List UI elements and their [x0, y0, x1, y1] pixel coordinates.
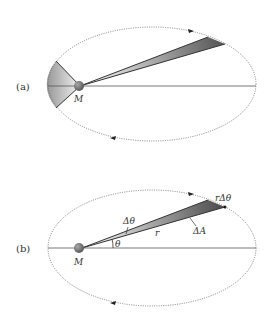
orbit-arrow-top-b: [188, 192, 194, 196]
radius-label: r: [155, 228, 160, 238]
theta-arc: [112, 239, 113, 248]
mass-label-b: M: [73, 257, 84, 267]
panel-b-label: (b): [16, 243, 30, 254]
aphelion-wedge: [80, 37, 225, 86]
kepler-second-law-diagram: (a) M (b) M θ Δθ r rΔθ ΔA: [0, 0, 274, 314]
mass-label-a: M: [73, 94, 84, 104]
delta-theta-label: Δθ: [122, 216, 135, 226]
theta-label: θ: [115, 239, 121, 249]
central-mass-b: [74, 243, 84, 253]
orbit-arrow-top: [188, 29, 194, 33]
area-label: ΔA: [192, 226, 206, 236]
panel-a: (a) M: [16, 27, 256, 141]
panel-a-label: (a): [16, 81, 30, 92]
swept-area-wedge: [82, 200, 225, 248]
arc-length-label: rΔθ: [215, 193, 232, 203]
central-mass: [74, 81, 84, 91]
panel-b: (b) M θ Δθ r rΔθ ΔA: [16, 190, 256, 306]
